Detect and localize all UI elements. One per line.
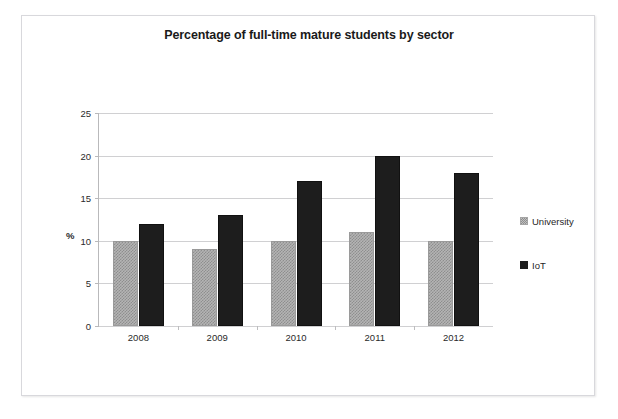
gridline [99,156,493,157]
y-tick-mark [95,283,99,284]
legend-label-iot: IoT [532,260,546,271]
y-tick-mark [95,113,99,114]
chart-title: Percentage of full-time mature students … [22,28,596,42]
x-tick-label-2009: 2009 [207,332,228,343]
y-tick-mark [95,198,99,199]
x-tick-label-2012: 2012 [443,332,464,343]
legend-swatch-iot-icon [520,261,528,269]
bar-iot-2010 [297,181,322,326]
bar-university-2012 [428,241,453,326]
scan-artifact-top-strip [0,0,618,10]
y-tick-label: 10 [80,235,91,246]
y-tick-mark [95,156,99,157]
bar-university-2011 [349,232,374,326]
gridline [99,113,493,114]
y-tick-label: 15 [80,193,91,204]
bar-university-2009 [192,249,217,326]
bar-university-2008 [113,241,138,326]
x-tick-label-2010: 2010 [285,332,306,343]
y-tick-label: 25 [80,108,91,119]
x-tick-label-2011: 2011 [365,332,385,343]
chart-figure-frame: Percentage of full-time mature students … [21,15,595,396]
bar-iot-2011 [375,156,400,326]
plot-area: 0510152025 20082009201020112012 [99,113,493,326]
bar-university-2010 [271,241,296,326]
y-tick-mark [95,326,99,327]
y-axis-line [98,113,99,327]
x-tick-mark [178,326,179,330]
y-tick-mark [95,241,99,242]
bar-iot-2012 [454,173,479,326]
y-tick-label: 20 [80,150,91,161]
bar-iot-2009 [218,215,243,326]
legend-item-iot[interactable]: IoT [520,258,594,272]
y-axis-label: % [66,230,74,241]
gridline [99,326,493,327]
x-tick-mark [257,326,258,330]
x-tick-mark [414,326,415,330]
x-tick-label-2008: 2008 [128,332,149,343]
bar-iot-2008 [139,224,164,326]
y-tick-label: 5 [86,278,91,289]
chart-legend: UniversityIoT [520,214,594,302]
legend-item-university[interactable]: University [520,214,594,228]
y-tick-label: 0 [86,321,91,332]
x-tick-mark [335,326,336,330]
legend-label-university: University [532,216,574,227]
legend-swatch-university-icon [520,217,528,225]
